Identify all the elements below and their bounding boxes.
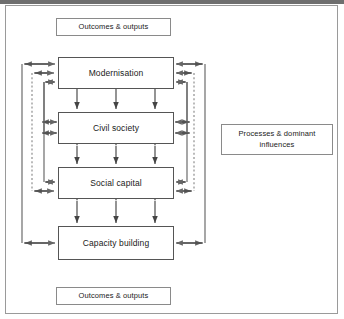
node-capacity-building[interactable]: Capacity building — [58, 226, 174, 260]
node-modernisation-label: Modernisation — [89, 68, 144, 79]
node-civil-society-label: Civil society — [93, 123, 139, 134]
connector-layer — [0, 0, 344, 319]
right-outer-connector — [176, 64, 205, 243]
node-capacity-building-label: Capacity building — [83, 238, 149, 249]
node-civil-society[interactable]: Civil society — [58, 112, 174, 144]
annotation-processes-influences-label: Processes & dominant influences — [238, 129, 315, 149]
annotation-outcomes-top-label: Outcomes & outputs — [79, 22, 149, 32]
annotation-processes-line2: influences — [260, 140, 295, 149]
left-inner-connector — [44, 82, 55, 182]
vlink-civil-social — [77, 146, 155, 164]
annotation-outcomes-top: Outcomes & outputs — [56, 18, 171, 36]
annotation-outcomes-bottom: Outcomes & outputs — [56, 287, 171, 305]
diagram-canvas: Modernisation Civil society Social capit… — [0, 0, 344, 319]
annotation-outcomes-bottom-label: Outcomes & outputs — [79, 291, 149, 301]
right-civil-stubs — [175, 122, 190, 133]
vlink-modernisation-civil — [77, 89, 155, 109]
node-social-capital-label: Social capital — [90, 178, 141, 189]
node-social-capital[interactable]: Social capital — [58, 167, 174, 199]
right-dashed-connector — [176, 73, 194, 191]
annotation-processes-influences: Processes & dominant influences — [221, 124, 333, 155]
left-dashed-connector — [32, 73, 54, 191]
annotation-processes-line1: Processes & dominant — [238, 129, 315, 138]
vlink-social-capacity — [77, 201, 155, 223]
left-outer-connector — [22, 64, 55, 243]
right-inner-connector — [176, 82, 187, 182]
node-modernisation[interactable]: Modernisation — [58, 57, 174, 89]
